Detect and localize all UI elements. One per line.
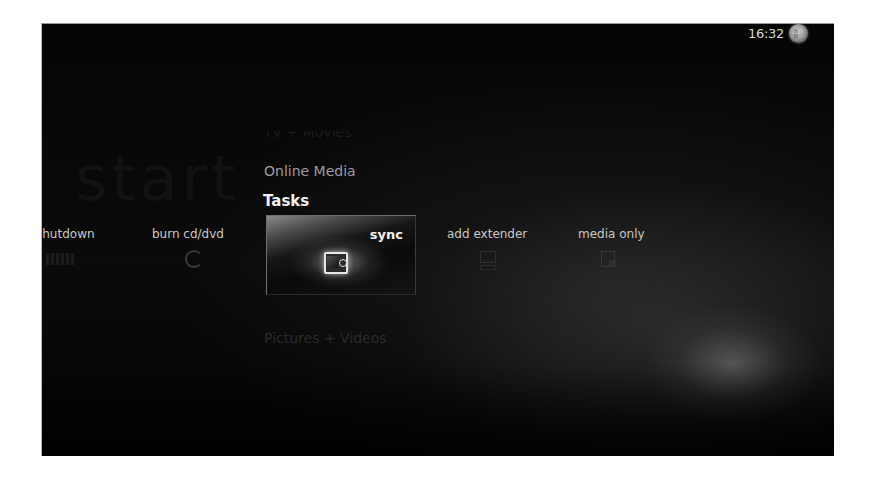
media-only-icon bbox=[601, 251, 615, 267]
menu-item-tasks[interactable]: Tasks bbox=[263, 192, 309, 210]
background-shade bbox=[42, 364, 834, 456]
task-label: media only bbox=[578, 227, 645, 241]
task-label: add extender bbox=[447, 227, 527, 241]
task-label: burn cd/dvd bbox=[152, 227, 224, 241]
shutdown-icon bbox=[46, 253, 76, 265]
menu-item-pictures-videos[interactable]: Pictures + Videos bbox=[264, 330, 387, 346]
task-label: shutdown bbox=[41, 227, 95, 241]
disc-icon bbox=[185, 250, 203, 268]
clock: 16:32 bbox=[748, 26, 784, 41]
start-watermark: start bbox=[75, 142, 239, 215]
media-center-screen: start 16:32 TV + Movies Online Media Tas… bbox=[41, 23, 834, 456]
menu-item-tv-movies[interactable]: TV + Movies bbox=[264, 131, 352, 141]
menu-item-online-media[interactable]: Online Media bbox=[264, 163, 356, 179]
windows-logo-icon bbox=[794, 29, 803, 38]
windows-orb-icon[interactable] bbox=[789, 24, 808, 43]
task-label: sync bbox=[370, 227, 403, 242]
monitor-icon bbox=[480, 251, 496, 270]
task-sync[interactable]: sync bbox=[266, 215, 416, 295]
portable-device-icon bbox=[324, 252, 348, 274]
